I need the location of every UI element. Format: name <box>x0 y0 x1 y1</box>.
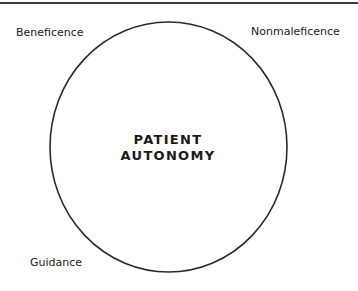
center-label-line1: PATIENT <box>118 132 218 148</box>
label-nonmaleficence: Nonmaleficence <box>251 25 340 38</box>
center-label-line2: AUTONOMY <box>118 148 218 164</box>
label-guidance: Guidance <box>30 256 82 269</box>
label-beneficence: Beneficence <box>16 26 84 39</box>
center-label: PATIENT AUTONOMY <box>118 132 218 164</box>
